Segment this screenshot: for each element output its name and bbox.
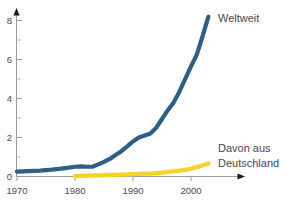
y-axis-arrow-icon [13, 8, 19, 16]
chart-container: 0 2 4 6 8 1970 1980 1990 2000 Weltweit D… [0, 0, 291, 202]
y-major-ticks [17, 21, 23, 177]
deutschland-label-line1: Davon aus [218, 142, 271, 154]
line-chart: 0 2 4 6 8 1970 1980 1990 2000 Weltweit D… [0, 0, 291, 202]
deutschland-label-line2: Deutschland [218, 157, 279, 169]
x-tick-label-1990: 1990 [122, 185, 143, 196]
x-axis-arrow-icon [238, 173, 246, 179]
weltweit-label: Weltweit [218, 12, 259, 24]
y-tick-label-2: 2 [7, 132, 12, 143]
y-tick-label-0: 0 [7, 171, 12, 182]
x-tick-label-1970: 1970 [6, 185, 27, 196]
y-tick-label-6: 6 [7, 54, 12, 65]
series-line-weltweit [17, 17, 208, 172]
y-tick-label-4: 4 [7, 93, 12, 104]
x-tick-label-2000: 2000 [180, 185, 201, 196]
x-tick-label-1980: 1980 [64, 185, 85, 196]
y-tick-label-8: 8 [7, 15, 12, 26]
